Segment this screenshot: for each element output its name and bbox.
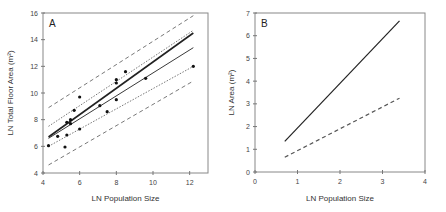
series-line: [49, 66, 194, 146]
y-tick-label: 4: [34, 170, 38, 177]
x-axis-label: LN Population Size: [91, 194, 160, 203]
figure: 468101214164681012LN Population SizeLN T…: [0, 0, 446, 212]
x-tick-label: 1: [296, 178, 300, 185]
series-line: [285, 98, 400, 157]
panel-label: A: [49, 18, 56, 29]
y-tick-label: 7: [246, 10, 250, 17]
data-point: [106, 110, 109, 113]
data-point: [65, 121, 68, 124]
y-tick-label: 16: [30, 10, 38, 17]
data-point: [69, 122, 72, 125]
x-tick-label: 0: [253, 178, 257, 185]
x-tick-label: 2: [338, 178, 342, 185]
data-point: [69, 118, 72, 121]
y-tick-label: 6: [34, 143, 38, 150]
data-point: [78, 95, 81, 98]
y-tick-label: 4: [246, 78, 250, 85]
panel-b: 0123456701234LN Population SizeLN Area (…: [227, 10, 427, 204]
y-tick-label: 2: [246, 123, 250, 130]
data-point: [63, 145, 66, 148]
data-point: [124, 70, 127, 73]
x-tick-label: 4: [41, 179, 45, 186]
y-tick-label: 5: [246, 55, 250, 62]
y-tick-label: 0: [246, 169, 250, 176]
y-tick-label: 12: [30, 63, 38, 70]
y-tick-label: 3: [246, 100, 250, 107]
data-point: [98, 104, 101, 107]
data-point: [115, 98, 118, 101]
data-point: [115, 81, 118, 84]
series-line: [285, 21, 400, 141]
x-tick-label: 3: [381, 178, 385, 185]
chart-canvas: 468101214164681012LN Population SizeLN T…: [0, 0, 446, 212]
y-tick-label: 8: [34, 116, 38, 123]
x-tick-label: 6: [78, 179, 82, 186]
x-tick-label: 12: [186, 179, 194, 186]
panel-label: B: [261, 18, 268, 29]
data-point: [65, 133, 68, 136]
plot-frame: [43, 13, 208, 173]
data-point: [78, 127, 81, 130]
y-axis-label: LN Area (m²): [227, 69, 236, 115]
plot-frame: [255, 13, 425, 172]
x-tick-label: 8: [114, 179, 118, 186]
y-tick-label: 6: [246, 32, 250, 39]
data-point: [56, 135, 59, 138]
data-point: [73, 109, 76, 112]
x-tick-label: 4: [423, 178, 427, 185]
x-axis-label: LN Population Size: [306, 194, 375, 203]
panel-a: 468101214164681012LN Population SizeLN T…: [6, 10, 208, 204]
series-line: [49, 33, 194, 137]
data-point: [47, 144, 50, 147]
data-point: [192, 65, 195, 68]
data-point: [144, 77, 147, 80]
x-tick-label: 10: [149, 179, 157, 186]
y-tick-label: 1: [246, 146, 250, 153]
y-axis-label: LN Total Floor Area (m²): [6, 50, 15, 136]
y-tick-label: 14: [30, 36, 38, 43]
y-tick-label: 10: [30, 90, 38, 97]
data-point: [115, 78, 118, 81]
